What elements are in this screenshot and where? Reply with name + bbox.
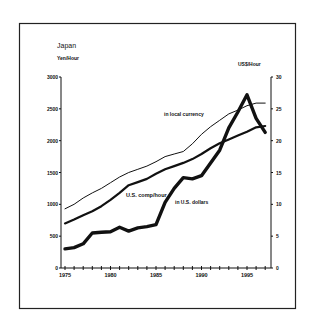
- left-tick-label: 2500: [47, 106, 58, 112]
- right-tick-label: 25: [276, 106, 282, 112]
- left-tick-label: 3000: [47, 74, 58, 80]
- label-local-currency: in local currency: [164, 111, 204, 117]
- chart-canvas: Japan Yen/Hour US$/Hour 0500100015002000…: [0, 0, 313, 327]
- x-tick-label: 1995: [241, 272, 253, 278]
- left-tick-label: 1000: [47, 201, 58, 207]
- right-tick-label: 20: [276, 138, 282, 144]
- right-axis-unit: US$/Hour: [238, 61, 261, 67]
- series-lines: [65, 95, 265, 249]
- chart-title: Japan: [57, 42, 76, 50]
- x-tick-label: 1975: [59, 272, 71, 278]
- left-tick-label: 2000: [47, 138, 58, 144]
- axes: 0500100015002000250030000510152025301975…: [47, 74, 282, 278]
- series-u-s-comp-hour: [65, 126, 265, 223]
- x-tick-label: 1990: [195, 272, 207, 278]
- label-us-comp-hour: U.S. comp/hour: [126, 192, 168, 198]
- right-tick-label: 15: [276, 170, 282, 176]
- x-tick-label: 1980: [104, 272, 116, 278]
- series-in-u-s-dollars: [65, 95, 265, 249]
- right-tick-label: 5: [276, 233, 279, 239]
- left-tick-label: 0: [55, 265, 58, 271]
- right-tick-label: 30: [276, 74, 282, 80]
- right-tick-label: 0: [276, 265, 279, 271]
- left-tick-label: 1500: [47, 170, 58, 176]
- left-tick-label: 500: [50, 233, 59, 239]
- right-tick-label: 10: [276, 201, 282, 207]
- x-tick-label: 1985: [150, 272, 162, 278]
- label-us-dollars: in U.S. dollars: [175, 199, 209, 205]
- left-axis-unit: Yen/Hour: [57, 55, 79, 61]
